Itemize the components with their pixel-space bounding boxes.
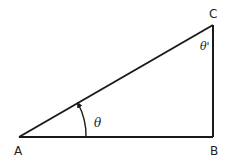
angle-arc-icon (79, 105, 87, 138)
side-ac-hypotenuse (19, 25, 213, 137)
triangle-diagram: A B C θ θ' (0, 0, 231, 162)
angle-label-theta: θ (94, 116, 102, 130)
vertex-label-c: C (209, 7, 217, 21)
vertex-label-b: B (210, 144, 218, 158)
angle-label-theta-prime: θ' (200, 40, 210, 53)
vertex-label-a: A (14, 144, 23, 158)
